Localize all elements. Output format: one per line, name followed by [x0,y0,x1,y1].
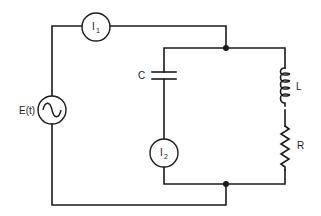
resistor-label: R [297,140,304,151]
ac-source: E(t) [19,96,66,124]
capacitor-label: C [138,70,145,81]
ammeter-i2: I 2 [150,139,178,167]
ammeter-i2-subscript: 2 [164,153,168,160]
bottom-junction [223,181,229,187]
ammeter-i1-subscript: 1 [96,27,100,34]
ammeter-i1: I 1 [82,13,110,41]
top-junction [223,45,229,51]
source-label: E(t) [19,105,35,116]
ammeter-i2-label: I [160,147,163,158]
ammeter-i1-label: I [92,21,95,32]
inductor-label: L [296,81,302,92]
inductor: L [281,68,303,106]
capacitor: C [138,70,176,81]
circuit-diagram: E(t) I 1 C I 2 L R [0,0,321,216]
resistor: R [281,126,304,170]
parallel-branch-wires [164,48,285,184]
outer-loop-wires [52,26,226,205]
